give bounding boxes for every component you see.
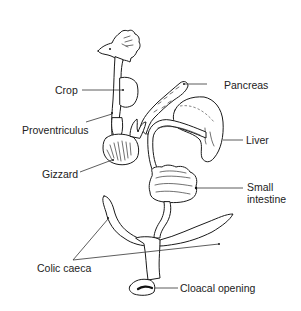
label-crop: Crop bbox=[55, 84, 78, 96]
crop bbox=[120, 77, 138, 107]
bird-head bbox=[98, 30, 140, 62]
gizzard bbox=[103, 134, 139, 165]
cloaca bbox=[129, 279, 155, 295]
label-pancreas: Pancreas bbox=[224, 79, 268, 91]
label-small-intestine-line2: intestine bbox=[247, 193, 286, 205]
label-proventriculus: Proventriculus bbox=[22, 124, 89, 136]
small-intestine bbox=[149, 165, 197, 238]
label-gizzard: Gizzard bbox=[42, 168, 78, 180]
label-liver: Liver bbox=[246, 134, 269, 146]
label-small-intestine-line1: Small bbox=[247, 181, 273, 193]
digestive-system-diagram: Crop Proventriculus Gizzard Pancreas Liv… bbox=[0, 0, 301, 311]
label-cloacal-opening: Cloacal opening bbox=[180, 282, 255, 294]
label-colic-caeca: Colic caeca bbox=[37, 262, 91, 274]
